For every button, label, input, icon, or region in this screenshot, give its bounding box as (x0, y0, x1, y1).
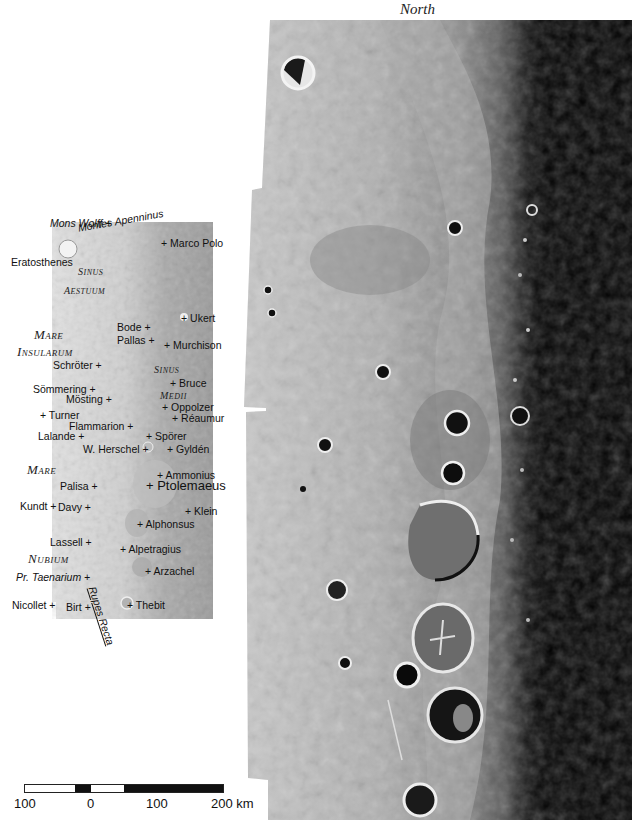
feature-label: + Alphonsus (137, 518, 195, 530)
scale-tick-label: 100 (14, 796, 36, 811)
feature-label: + Alpetragius (120, 543, 181, 555)
feature-label: Schröter + (53, 359, 102, 371)
scale-bar-black-right (124, 785, 223, 792)
mare-label: SINUS (154, 362, 179, 377)
feature-label: Birt + (66, 601, 91, 613)
feature-label: + Réaumur (172, 412, 224, 424)
feature-label: Kundt + (20, 500, 57, 512)
mare-label: NUBIUM (28, 552, 69, 566)
scale-tick-label: 0 (87, 796, 94, 811)
feature-label: Pr. Taenarium + (16, 571, 90, 583)
feature-label: W. Herschel + (83, 443, 149, 455)
scale-tick-label: 200 km (211, 796, 254, 811)
feature-label: + Klein (185, 505, 217, 517)
feature-label: + Murchison (164, 339, 221, 351)
scale-bar-white-mid (91, 785, 124, 792)
feature-label: + Ptolemaeus (146, 480, 226, 492)
feature-label: + Ukert (181, 312, 215, 324)
feature-label: Lassell + (50, 536, 92, 548)
feature-label: + Gyldén (167, 443, 209, 455)
mare-label: MARE (34, 328, 63, 342)
feature-label: Nicollet + (12, 599, 55, 611)
feature-label: Eratosthenes (11, 256, 73, 268)
feature-label: + Spörer (146, 430, 187, 442)
feature-label: + Marco Polo (161, 237, 223, 249)
feature-label: Bode + (117, 321, 151, 333)
mare-label: AESTUUM (64, 283, 105, 298)
feature-label: Palisa + (60, 480, 98, 492)
feature-label: Pallas + (117, 334, 155, 346)
feature-label: + Thebit (127, 599, 165, 611)
mare-label: MEDII (160, 388, 187, 403)
feature-label: + Arzachel (145, 565, 194, 577)
mare-label: SINUS (78, 264, 103, 279)
feature-label: Mösting + (66, 393, 112, 405)
mare-label: INSULARUM (17, 345, 73, 359)
mare-label: MARE (27, 463, 56, 477)
scale-tick-label: 100 (146, 796, 168, 811)
feature-label: Davy + (58, 501, 91, 513)
feature-label: Lalande + (38, 430, 84, 442)
